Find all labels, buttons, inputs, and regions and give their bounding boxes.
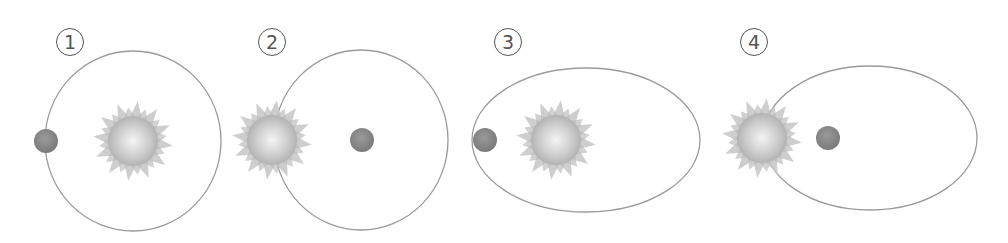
orbit-diagram: 1 2 3 4: [0, 0, 1008, 243]
panel-number: 2: [266, 33, 278, 52]
panel-4: [722, 66, 977, 210]
sun-icon: [93, 101, 172, 180]
panel-label-1: 1: [56, 28, 84, 56]
panel-number: 4: [748, 33, 760, 52]
planet-icon: [473, 128, 497, 152]
panel-number: 1: [64, 33, 76, 52]
planet-icon: [34, 129, 58, 153]
panel-label-4: 4: [740, 28, 768, 56]
panel-1: [34, 51, 221, 231]
panel-label-3: 3: [494, 28, 522, 56]
sun-icon: [516, 100, 595, 179]
panel-number: 3: [502, 33, 514, 52]
panel-label-2: 2: [258, 28, 286, 56]
orbit-path: [763, 66, 977, 210]
panel-3: [472, 68, 700, 212]
planet-icon: [816, 126, 840, 150]
sun-icon: [722, 98, 801, 177]
planet-icon: [350, 128, 374, 152]
panel-2: [232, 50, 448, 230]
sun-icon: [232, 100, 311, 179]
